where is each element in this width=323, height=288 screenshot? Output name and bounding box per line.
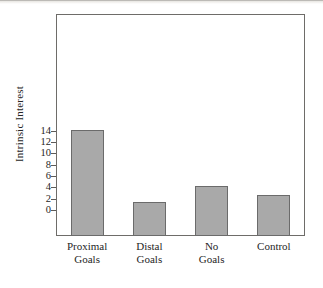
y-axis-tick-label: 14: [41, 126, 52, 136]
bar: [195, 186, 228, 236]
y-axis-label-container: Intrinsic Interest: [8, 14, 30, 234]
y-axis-tick-mark: [51, 153, 56, 154]
y-axis-tick-mark: [51, 199, 56, 200]
bar-chart-figure: Intrinsic Interest 02468101214 Proximal …: [0, 0, 323, 288]
x-axis-category-label-group: Proximal GoalsDistal GoalsNo GoalsContro…: [56, 240, 305, 280]
y-axis-tick-label-group: 02468101214: [30, 14, 51, 236]
y-axis-tick-label: 12: [41, 137, 52, 147]
y-axis-tick-mark: [51, 210, 56, 211]
x-axis-category-label: No Goals: [181, 240, 243, 265]
y-axis-tick-mark: [51, 187, 56, 188]
bar: [257, 195, 290, 236]
y-axis-label: Intrinsic Interest: [13, 86, 25, 162]
y-axis-tick-mark: [51, 131, 56, 132]
y-axis-tick-mark: [51, 165, 56, 166]
y-axis-tick-label: 10: [41, 148, 52, 158]
y-axis-tick-mark: [51, 142, 56, 143]
bar: [71, 130, 104, 236]
x-axis-category-label: Proximal Goals: [56, 240, 118, 265]
y-axis-tick-mark: [51, 176, 56, 177]
x-axis-category-label: Distal Goals: [118, 240, 180, 265]
bar: [133, 202, 166, 236]
plot-area: [56, 14, 305, 236]
x-axis-category-label: Control: [243, 240, 305, 253]
